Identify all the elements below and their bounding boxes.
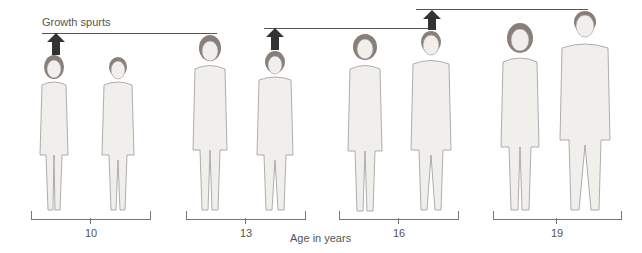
- growth-line-1: [42, 33, 217, 34]
- figure-girl-age-10: [34, 55, 74, 215]
- age-label-19: 19: [542, 227, 572, 239]
- age-label-10: 10: [76, 227, 106, 239]
- figure-woman-age-19: [495, 22, 545, 215]
- age-label-13: 13: [231, 227, 261, 239]
- figure-boy-age-13: [253, 50, 297, 215]
- age-bracket-19: [493, 211, 622, 220]
- age-bracket-16: [339, 211, 459, 220]
- age-tick-13: [245, 218, 246, 224]
- age-bracket-10: [31, 211, 151, 220]
- diagram-title: Growth spurts: [42, 16, 110, 28]
- figure-girl-age-13: [188, 35, 232, 215]
- growth-line-2: [264, 28, 434, 29]
- up-arrow-icon: [47, 33, 65, 55]
- up-arrow-icon: [423, 10, 441, 32]
- age-tick-19: [556, 218, 557, 224]
- age-tick-10: [90, 218, 91, 224]
- x-axis-label: Age in years: [290, 232, 351, 244]
- figure-boy-age-10: [98, 55, 138, 215]
- age-label-16: 16: [384, 227, 414, 239]
- figure-boy-age-16: [408, 30, 454, 215]
- up-arrow-icon: [266, 28, 284, 50]
- figure-girl-age-16: [343, 33, 387, 215]
- age-tick-16: [398, 218, 399, 224]
- age-bracket-13: [186, 211, 306, 220]
- figure-man-age-19: [557, 10, 613, 215]
